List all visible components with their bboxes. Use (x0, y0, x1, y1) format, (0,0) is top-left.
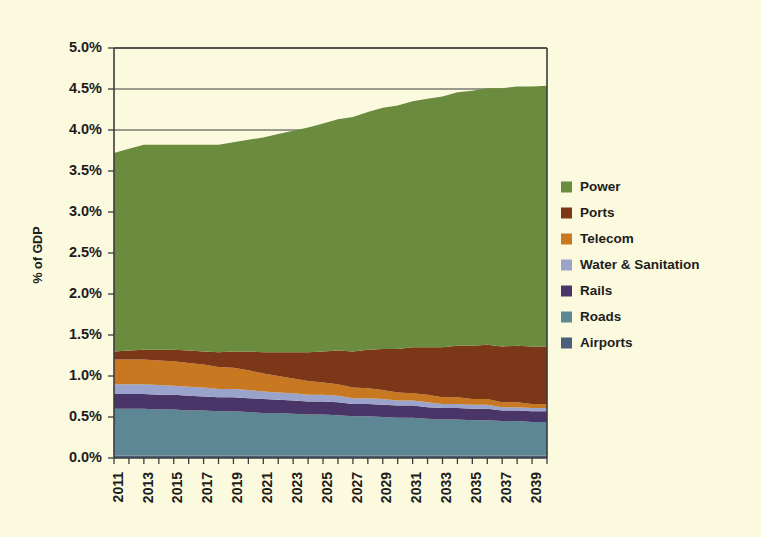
x-tick-label: 2011 (110, 472, 126, 503)
x-tick-label: 2027 (349, 472, 365, 503)
y-tick-label: 2.0% (69, 285, 102, 301)
x-tick-label: 2017 (199, 472, 215, 503)
y-tick-label: 5.0% (69, 39, 102, 55)
legend-label-roads: Roads (580, 309, 621, 324)
stacked-area-chart: 0.0%0.5%1.0%1.5%2.0%2.5%3.0%3.5%4.0%4.5%… (0, 0, 761, 537)
area-series-power (114, 86, 547, 353)
x-tick-label: 2021 (259, 472, 275, 503)
legend-swatch-ports (561, 208, 572, 219)
y-tick-label: 3.5% (69, 162, 102, 178)
y-tick-label: 2.5% (69, 244, 102, 260)
x-tick-label: 2035 (468, 472, 484, 503)
x-tick-label: 2015 (169, 472, 185, 503)
y-axis-title: % of GDP (31, 227, 45, 284)
legend-label-ports: Ports (580, 205, 615, 220)
legend-label-water-sanitation: Water & Sanitation (580, 257, 700, 272)
legend-label-telecom: Telecom (580, 231, 634, 246)
legend-label-power: Power (580, 179, 621, 194)
legend-swatch-airports (561, 338, 572, 349)
x-tick-label: 2019 (229, 472, 245, 503)
x-tick-label: 2039 (528, 472, 544, 503)
x-axis-ticks: 2011201320152017201920212023202520272029… (110, 458, 547, 503)
y-tick-label: 1.0% (69, 367, 102, 383)
legend-swatch-rails (561, 286, 572, 297)
x-tick-label: 2025 (319, 472, 335, 503)
x-tick-label: 2013 (140, 472, 156, 503)
x-tick-label: 2033 (438, 472, 454, 503)
plot-areas (114, 86, 547, 458)
x-tick-label: 2037 (498, 472, 514, 503)
chart-container: 0.0%0.5%1.0%1.5%2.0%2.5%3.0%3.5%4.0%4.5%… (0, 0, 761, 537)
legend-label-rails: Rails (580, 283, 612, 298)
y-tick-label: 4.5% (69, 80, 102, 96)
legend-label-airports: Airports (580, 335, 633, 350)
y-tick-label: 4.0% (69, 121, 102, 137)
x-tick-label: 2023 (289, 472, 305, 503)
legend-swatch-telecom (561, 234, 572, 245)
y-tick-label: 1.5% (69, 326, 102, 342)
legend-swatch-roads (561, 312, 572, 323)
x-tick-label: 2029 (378, 472, 394, 503)
y-tick-label: 0.5% (69, 408, 102, 424)
y-tick-label: 0.0% (69, 449, 102, 465)
y-axis-ticks: 0.0%0.5%1.0%1.5%2.0%2.5%3.0%3.5%4.0%4.5%… (69, 39, 114, 465)
chart-legend: PowerPortsTelecomWater & SanitationRails… (561, 179, 700, 350)
x-tick-label: 2031 (408, 472, 424, 503)
legend-swatch-water-sanitation (561, 260, 572, 271)
legend-swatch-power (561, 182, 572, 193)
y-tick-label: 3.0% (69, 203, 102, 219)
y-axis-title: % of GDP (31, 227, 45, 284)
